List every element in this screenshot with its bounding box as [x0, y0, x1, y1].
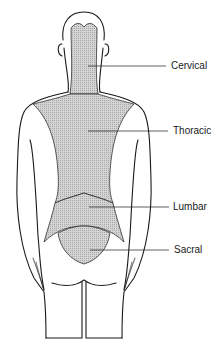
region-sacral [58, 226, 110, 264]
region-cervical [70, 23, 98, 94]
spine-regions-diagram [0, 0, 224, 344]
label-cervical: Cervical [171, 61, 207, 71]
label-sacral: Sacral [174, 245, 202, 255]
label-thoracic: Thoracic [173, 126, 211, 136]
spine-regions [33, 23, 134, 264]
label-lumbar: Lumbar [173, 202, 207, 212]
region-thoracic [33, 94, 134, 203]
